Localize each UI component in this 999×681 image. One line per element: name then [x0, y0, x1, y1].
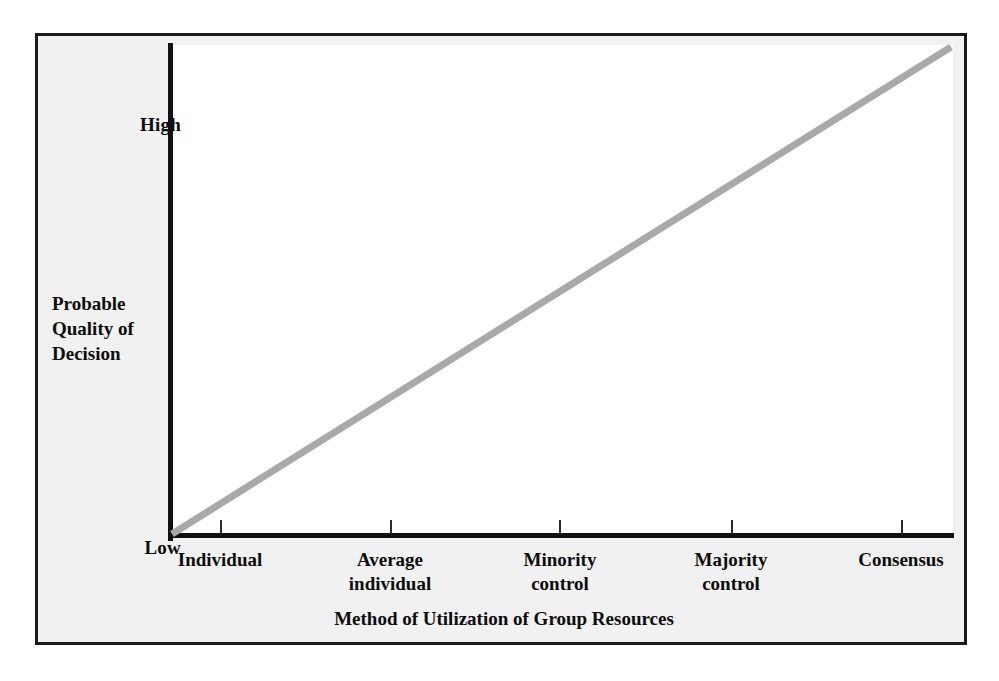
- x-tick-label-consensus-line-1: Consensus: [816, 548, 986, 572]
- y-axis-title: Probable Quality of Decision: [52, 291, 170, 366]
- x-axis-tick-minority-control: [559, 520, 561, 534]
- x-axis-tick-individual: [220, 520, 222, 534]
- x-tick-label-average-individual-line-1: Average: [305, 548, 475, 572]
- chart-panel: High Low Probable Quality of Decision In…: [35, 33, 967, 645]
- x-axis-tick-average-individual: [390, 520, 392, 534]
- y-axis-title-line-1: Probable: [52, 291, 170, 316]
- x-tick-label-majority-control-line-1: Majority: [646, 548, 816, 572]
- x-axis-tick-consensus: [901, 520, 903, 534]
- x-tick-label-minority-control-line-1: Minority: [475, 548, 645, 572]
- y-axis-title-line-2: Quality of: [52, 316, 170, 341]
- x-axis-line: [168, 533, 954, 538]
- plot-area: [170, 45, 953, 537]
- x-tick-label-minority-control: Minority control: [475, 548, 645, 596]
- y-axis-high-label: High: [61, 114, 181, 136]
- y-axis-title-line-3: Decision: [52, 341, 170, 366]
- x-tick-label-minority-control-line-2: control: [475, 572, 645, 596]
- x-tick-label-consensus: Consensus: [816, 548, 986, 572]
- figure-canvas: High Low Probable Quality of Decision In…: [0, 0, 999, 681]
- x-tick-label-majority-control: Majority control: [646, 548, 816, 596]
- x-axis-tick-majority-control: [731, 520, 733, 534]
- x-tick-label-average-individual-line-2: individual: [305, 572, 475, 596]
- x-tick-label-individual: Individual: [135, 548, 305, 572]
- x-tick-label-average-individual: Average individual: [305, 548, 475, 596]
- x-tick-label-majority-control-line-2: control: [646, 572, 816, 596]
- x-tick-label-individual-line-1: Individual: [135, 548, 305, 572]
- x-axis-title: Method of Utilization of Group Resources: [38, 608, 970, 630]
